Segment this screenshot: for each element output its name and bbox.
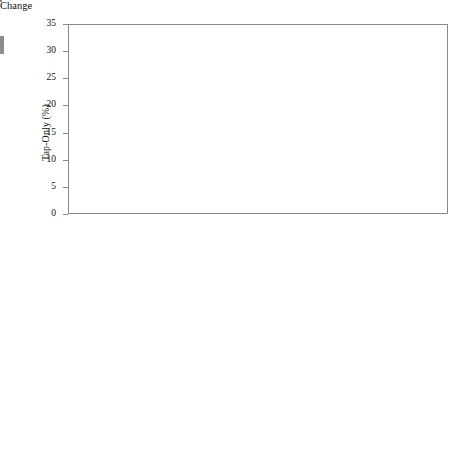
y-tick-mark — [63, 24, 68, 25]
y-tick-mark — [63, 214, 68, 215]
plot-frame-tap-only — [68, 24, 448, 214]
y-tick-mark — [63, 78, 68, 79]
y-tick-label: 0 — [30, 209, 56, 219]
histogram-figure: 05101520253035 Tap-Only (%) Bottle-Only … — [0, 0, 473, 475]
y-tick-mark — [63, 187, 68, 188]
y-tick-label: 30 — [30, 46, 56, 56]
y-tick-mark — [63, 133, 68, 134]
x-axis-title: Change — [0, 0, 32, 11]
page-edge-mark — [0, 36, 4, 54]
y-tick-mark — [63, 105, 68, 106]
y-axis-title-tap-only: Tap-Only (%) — [40, 104, 51, 161]
y-tick-label: 25 — [30, 73, 56, 83]
y-tick-label: 35 — [30, 19, 56, 29]
y-tick-mark — [63, 51, 68, 52]
y-tick-mark — [63, 160, 68, 161]
y-tick-label: 5 — [30, 182, 56, 192]
